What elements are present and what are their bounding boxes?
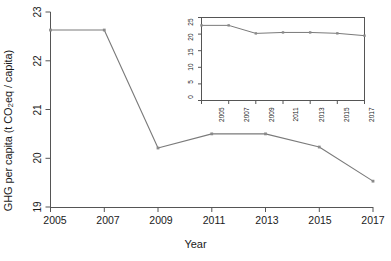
inset-data-point: [363, 34, 365, 36]
inset-data-point: [255, 32, 257, 34]
main-data-point: [157, 147, 160, 150]
main-data-line: [51, 30, 374, 181]
inset-data-point: [282, 31, 284, 33]
plot-canvas: [0, 0, 391, 261]
chart-figure: GHG per capita (t CO2 eq / capita) Year …: [0, 0, 391, 261]
inset-x-axis-ticks: [202, 101, 365, 105]
main-axes: [46, 12, 374, 212]
inset-plot: [198, 18, 366, 105]
main-data-point: [49, 29, 52, 32]
inset-data-point: [309, 31, 311, 33]
main-data-point: [210, 132, 213, 135]
inset-y-axis-ticks: [198, 18, 202, 101]
main-data-point: [103, 29, 106, 32]
inset-frame-box: [202, 18, 365, 101]
inset-data-point: [336, 32, 338, 34]
inset-data-line: [202, 25, 365, 35]
inset-data-point: [200, 24, 202, 26]
inset-data-point: [227, 24, 229, 26]
y-axis-ticks: [46, 12, 51, 207]
main-data-point: [372, 180, 375, 183]
main-series-ghg-per-capita: [49, 29, 374, 183]
main-data-point: [264, 132, 267, 135]
main-data-point: [318, 146, 321, 149]
inset-data-points: [200, 24, 365, 37]
main-data-points: [49, 29, 374, 183]
